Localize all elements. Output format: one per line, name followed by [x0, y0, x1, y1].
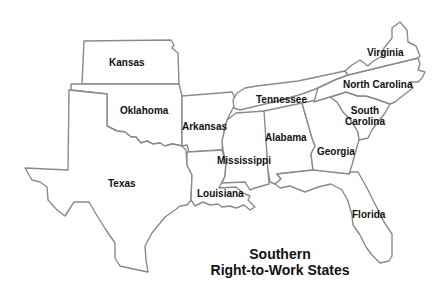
- label-south-carolina: South Carolina: [345, 105, 385, 127]
- label-south-carolina-line1: South: [345, 105, 385, 116]
- map-title: Southern Right-to-Work States: [205, 246, 355, 278]
- label-north-carolina: North Carolina: [343, 79, 412, 90]
- label-kansas: Kansas: [109, 57, 145, 68]
- label-texas: Texas: [108, 178, 136, 189]
- label-louisiana: Louisiana: [197, 188, 244, 199]
- state-mississippi[interactable]: [222, 111, 269, 190]
- label-oklahoma: Oklahoma: [120, 105, 168, 116]
- map-title-line1: Southern: [205, 246, 355, 262]
- label-south-carolina-line2: Carolina: [345, 116, 385, 127]
- label-mississippi: Mississippi: [217, 155, 271, 166]
- label-arkansas: Arkansas: [182, 121, 227, 132]
- label-tennessee: Tennessee: [256, 94, 307, 105]
- label-alabama: Alabama: [265, 132, 307, 143]
- label-virginia: Virginia: [367, 47, 404, 58]
- map-title-line2: Right-to-Work States: [205, 262, 355, 278]
- label-georgia: Georgia: [317, 146, 355, 157]
- label-florida: Florida: [352, 209, 385, 220]
